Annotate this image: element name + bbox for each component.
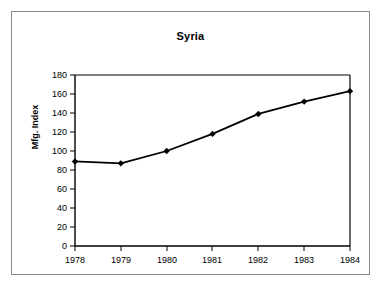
data-point-1981 bbox=[209, 131, 215, 137]
plot-area: Mfg. Index 180 160 140 120 100 80 60 40 … bbox=[12, 12, 371, 276]
data-series-line bbox=[75, 91, 350, 163]
data-point-1983 bbox=[301, 98, 307, 104]
data-point-1980 bbox=[163, 148, 169, 154]
x-axis-ticks bbox=[75, 246, 350, 251]
chart-frame: Syria Mfg. Index 180 160 140 120 100 80 … bbox=[11, 11, 370, 275]
data-point-1979 bbox=[118, 160, 124, 166]
line-chart-svg bbox=[12, 12, 371, 276]
data-point-1984 bbox=[347, 88, 353, 94]
data-point-1978 bbox=[72, 158, 78, 164]
data-point-1982 bbox=[255, 111, 261, 117]
